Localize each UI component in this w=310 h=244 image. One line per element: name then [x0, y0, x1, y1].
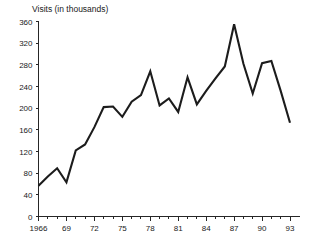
y-tick-label: 240 [19, 83, 33, 92]
line-chart: Visits (in thousands) 040801201602002402… [0, 0, 310, 244]
y-tick-label: 160 [19, 126, 33, 135]
x-tick-label: 93 [286, 224, 295, 233]
x-tick-label: 90 [258, 224, 267, 233]
x-tick-label: 81 [174, 224, 183, 233]
y-tick-group: 04080120160200240280320360 [19, 18, 38, 222]
y-tick-label: 360 [19, 18, 33, 27]
y-tick-label: 40 [24, 191, 33, 200]
x-tick-label: 72 [90, 224, 99, 233]
y-tick-label: 320 [19, 39, 33, 48]
data-series-line [39, 24, 291, 185]
y-tick-label: 280 [19, 61, 33, 70]
x-tick-label: 69 [62, 224, 71, 233]
plot-area: 04080120160200240280320360 1966697275788… [0, 0, 310, 244]
x-tick-label: 78 [146, 224, 155, 233]
x-tick-label: 84 [202, 224, 211, 233]
x-tick-group: 1966697275788184879093 [30, 217, 295, 233]
y-tick-label: 120 [19, 148, 33, 157]
x-tick-label: 1966 [30, 224, 48, 233]
y-tick-label: 200 [19, 104, 33, 113]
y-tick-label: 80 [24, 169, 33, 178]
x-tick-label: 87 [230, 224, 239, 233]
x-tick-label: 75 [118, 224, 127, 233]
y-tick-label: 0 [28, 213, 33, 222]
